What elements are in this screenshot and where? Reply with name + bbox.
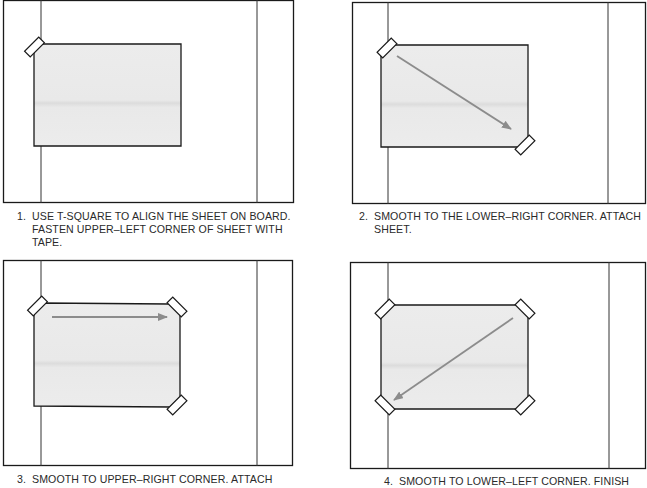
drawing-sheet [34, 303, 180, 407]
step-text: SMOOTH TO THE LOWER–RIGHT CORNER. ATTACH… [374, 210, 641, 236]
panel-step-3 [4, 260, 293, 466]
step-text: SMOOTH TO LOWER–LEFT CORNER. FINISH [399, 475, 629, 488]
step-text: SMOOTH TO UPPER–RIGHT CORNER. ATTACH [32, 473, 272, 486]
step-number: 3. [17, 473, 26, 486]
step-text: USE T-SQUARE TO ALIGN THE SHEET ON BOARD… [32, 210, 291, 249]
panel-step-4 [351, 262, 646, 469]
step-number: 4. [384, 475, 393, 488]
panel-step-1 [4, 0, 294, 203]
drawing-sheet [34, 44, 181, 146]
step-number: 1. [17, 210, 26, 223]
step-number: 2. [359, 210, 368, 223]
panel-step-2 [353, 2, 646, 204]
